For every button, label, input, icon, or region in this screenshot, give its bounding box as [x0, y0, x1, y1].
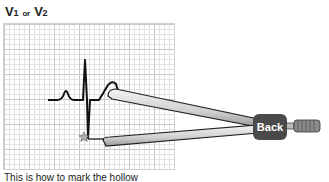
ecg-illustration	[0, 0, 329, 182]
caption-text: This is how to mark the hollow	[4, 172, 138, 182]
back-button[interactable]: Back	[253, 114, 287, 140]
ecg-trace	[48, 60, 120, 138]
